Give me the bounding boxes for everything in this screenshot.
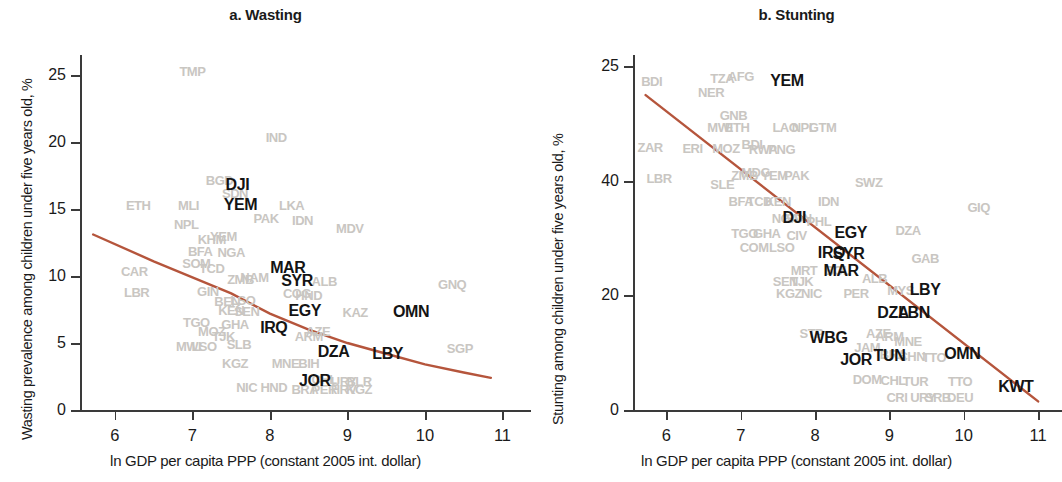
- y-tick-mark: [624, 410, 633, 412]
- country-label-lby: LBY: [372, 345, 403, 363]
- panel-wasting: a. Wasting Wasting prevalence among chil…: [0, 0, 531, 482]
- country-label-faint: MNE: [272, 356, 299, 371]
- country-label-faint: NIC: [236, 380, 257, 395]
- country-label-faint: MLI: [178, 198, 199, 213]
- country-label-faint: IDN: [818, 194, 839, 209]
- x-tick-mark: [192, 410, 194, 420]
- x-tick-label: 8: [795, 426, 835, 445]
- y-tick-mark: [624, 181, 633, 183]
- country-label-faint: GNQ: [438, 277, 466, 292]
- country-label-faint: GIQ: [967, 199, 989, 214]
- x-tick-label: 6: [646, 426, 686, 445]
- x-tick-mark: [502, 410, 504, 420]
- country-label-faint: PAK: [784, 168, 809, 183]
- x-tick-mark: [889, 410, 891, 420]
- x-tick-mark: [815, 410, 817, 420]
- panel-a-x-axis-title: ln GDP per capita PPP (constant 2005 int…: [0, 452, 531, 469]
- country-label-faint: LSO: [191, 338, 216, 353]
- country-label-faint: DEU: [947, 390, 973, 405]
- country-label-egy: EGY: [289, 302, 322, 320]
- y-tick-label: 10: [28, 267, 66, 285]
- y-tick-label: 5: [28, 334, 66, 352]
- country-label-faint: BIH: [298, 356, 319, 371]
- country-label-faint: PNG: [768, 142, 795, 157]
- x-tick-mark: [425, 410, 427, 420]
- panel-b-title: b. Stunting: [531, 6, 1062, 23]
- country-label-faint: KGZ: [222, 356, 248, 371]
- country-label-tun: TUN: [874, 347, 906, 365]
- x-tick-mark: [1038, 410, 1040, 420]
- country-label-faint: CRI: [886, 390, 907, 405]
- country-label-faint: TTO: [922, 350, 946, 365]
- x-tick-label: 11: [482, 426, 522, 445]
- y-tick-label: 0: [581, 401, 619, 419]
- country-label-syr: SYR: [833, 245, 865, 263]
- panel-b-y-axis-title: Stunting among children under five years…: [550, 134, 566, 425]
- country-label-faint: LSO: [769, 239, 794, 254]
- y-tick-label: 25: [28, 66, 66, 84]
- x-tick-mark: [270, 410, 272, 420]
- country-label-faint: NER: [698, 85, 724, 100]
- country-label-faint: LBR: [124, 285, 149, 300]
- x-tick-label: 9: [869, 426, 909, 445]
- x-tick-label: 11: [1018, 426, 1058, 445]
- y-tick-label: 25: [581, 57, 619, 75]
- country-label-faint: IDN: [292, 212, 313, 227]
- country-label-faint: PHL: [807, 214, 832, 229]
- country-label-faint: YEM: [210, 228, 237, 243]
- country-label-faint: CAR: [121, 263, 148, 278]
- x-tick-mark: [964, 410, 966, 420]
- x-tick-label: 10: [944, 426, 984, 445]
- country-label-faint: ARM: [295, 329, 323, 344]
- y-tick-label: 20: [581, 286, 619, 304]
- country-label-faint: GTM: [809, 119, 836, 134]
- country-label-faint: PAK: [254, 211, 279, 226]
- country-label-faint: ETH: [725, 119, 750, 134]
- country-label-faint: TUR: [903, 374, 928, 389]
- country-label-irq: IRQ: [260, 319, 287, 337]
- country-label-faint: KEN: [765, 194, 791, 209]
- country-label-jor: JOR: [840, 351, 872, 369]
- country-label-dji: DJI: [782, 209, 806, 227]
- country-label-faint: LKA: [279, 198, 304, 213]
- x-tick-label: 9: [327, 426, 367, 445]
- country-label-faint: IND: [266, 129, 287, 144]
- country-label-faint: BDI: [641, 73, 662, 88]
- panel-a-plot-area: TMPINDBGDSDNPAKLKAIDNMDVETHMLINPLKHMYEMB…: [80, 55, 518, 410]
- x-tick-label: 6: [95, 426, 135, 445]
- country-label-faint: ETH: [126, 198, 151, 213]
- country-label-omn: OMN: [393, 303, 429, 321]
- y-tick-mark: [71, 75, 80, 77]
- country-label-syr: SYR: [281, 272, 313, 290]
- country-label-kwt: KWT: [998, 378, 1033, 396]
- x-tick-mark: [741, 410, 743, 420]
- country-label-faint: ALB: [862, 271, 887, 286]
- y-tick-mark: [624, 66, 633, 68]
- panel-b-x-axis-line: [633, 410, 1062, 412]
- x-tick-mark: [115, 410, 117, 420]
- panel-a-x-axis-line: [80, 410, 531, 412]
- country-label-faint: TCD: [199, 261, 224, 276]
- panel-stunting: b. Stunting Stunting among children unde…: [531, 0, 1062, 482]
- country-label-faint: SGP: [447, 341, 473, 356]
- country-label-yem: YEM: [770, 72, 803, 90]
- country-label-lby: LBY: [910, 281, 941, 299]
- country-label-faint: NGA: [217, 244, 244, 259]
- x-tick-label: 8: [250, 426, 290, 445]
- country-label-mar: MAR: [824, 262, 859, 280]
- country-label-faint: HND: [260, 380, 287, 395]
- y-tick-mark: [624, 295, 633, 297]
- y-tick-label: 20: [28, 133, 66, 151]
- x-tick-label: 7: [172, 426, 212, 445]
- country-label-omn: OMN: [944, 345, 980, 363]
- country-label-faint: SLB: [227, 337, 252, 352]
- x-tick-mark: [666, 410, 668, 420]
- country-label-faint: LBR: [646, 171, 671, 186]
- y-tick-mark: [71, 142, 80, 144]
- panel-b-x-axis-title: ln GDP per capita PPP (constant 2005 int…: [531, 452, 1062, 469]
- country-label-dji: DJI: [226, 176, 250, 194]
- country-label-yem: YEM: [224, 196, 257, 214]
- panel-b-plot-area: BDITZAAFGNERGNBMWIETHLAONPLGTMZARERIMOZB…: [633, 55, 1053, 410]
- y-tick-mark: [71, 276, 80, 278]
- country-label-faint: TMP: [179, 64, 205, 79]
